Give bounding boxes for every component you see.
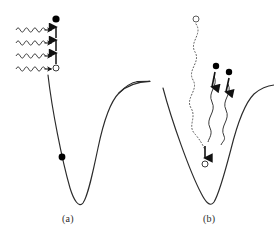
figure-root: (a) (b): [0, 0, 274, 237]
wavy-photon-arrow-1: [16, 28, 52, 32]
figure-canvas: [0, 0, 274, 237]
ground-state-open-circle: [53, 65, 59, 71]
panel-a: [16, 15, 150, 204]
emitted-particle-filled-circle-right: [226, 69, 232, 75]
wavy-photon-arrow-2: [16, 41, 52, 45]
panel-label-a: (a): [62, 213, 74, 224]
morse-potential-curve-a: [48, 75, 150, 205]
dotted-wavy-trajectory: [189, 24, 205, 150]
dissociation-open-circle: [193, 16, 199, 22]
excited-state-filled-circle: [52, 15, 59, 22]
wavy-photon-tail-right: [221, 84, 229, 145]
bound-state-filled-circle: [59, 154, 66, 161]
emitted-particle-filled-circle-left: [213, 63, 219, 69]
wavy-photon-arrow-group: [16, 28, 52, 71]
relaxed-state-open-circle: [202, 161, 208, 167]
panel-b: [163, 16, 274, 204]
wavy-photon-arrow-3: [16, 54, 52, 58]
panel-label-b: (b): [203, 213, 215, 224]
wavy-photon-arrow-4: [16, 67, 52, 71]
morse-potential-curve-b: [163, 85, 274, 204]
